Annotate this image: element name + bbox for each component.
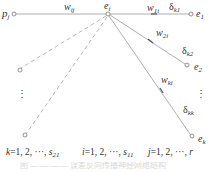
label-w-1i: w1i	[147, 3, 159, 16]
figure-caption: 图 — — — — 误差反向传播神经网络结构	[20, 162, 200, 170]
label-e1: e1	[196, 9, 204, 22]
label-ek: ek	[198, 134, 206, 147]
arrow-mark-w2i	[148, 39, 153, 43]
node-left-1	[18, 68, 22, 72]
label-delta-k2: δk2	[182, 46, 193, 59]
label-delta-k1: δk1	[169, 2, 180, 15]
label-pj: pj	[2, 8, 9, 22]
edge-ei-e2	[110, 15, 185, 64]
range-k: k=1, 2, ···, s21	[6, 147, 60, 160]
ellipsis-left: ⋮	[17, 92, 21, 96]
node-e1	[189, 12, 193, 16]
ellipsis-right: ⋮	[196, 92, 200, 96]
node-left-k	[23, 133, 27, 137]
label-w-ij: wij	[64, 2, 75, 15]
label-delta-kk: δkk	[183, 105, 194, 118]
label-ei: ei	[104, 1, 110, 14]
node-e2	[185, 63, 189, 67]
label-w-ki: wki	[161, 75, 173, 88]
node-pj	[12, 12, 16, 16]
edge-ei-ek	[109, 16, 190, 134]
node-ek	[190, 134, 194, 138]
label-w-2i: w2i	[156, 28, 168, 41]
label-e2: e2	[194, 62, 202, 75]
range-i: i=1, 2, ···, s11	[82, 147, 133, 160]
edge-ei-left-1	[21, 16, 106, 68]
edge-ei-left-k	[26, 17, 107, 134]
range-j: j=1, 2, ···, r	[148, 147, 193, 160]
